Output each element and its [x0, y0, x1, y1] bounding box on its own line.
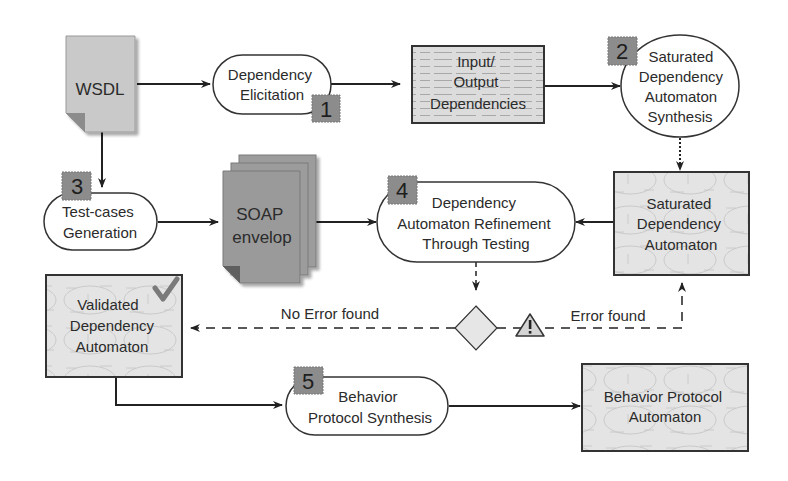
node-automaton-refinement[interactable]: Dependency Automaton Refinement Through … — [377, 176, 575, 262]
synthesis-line-4: Synthesis — [647, 108, 712, 125]
step-badge-2: 2 — [608, 37, 637, 65]
decision-diamond[interactable] — [455, 306, 497, 350]
svg-text:2: 2 — [616, 39, 628, 64]
behavior-synthesis-line-2: Protocol Synthesis — [308, 409, 432, 426]
step-badge-3: 3 — [62, 172, 91, 200]
synthesis-line-3: Automaton — [645, 88, 718, 105]
behavior-automaton-line-2: Automaton — [629, 408, 702, 425]
testcases-line-1: Test-cases — [62, 203, 134, 220]
workflow-diagram: WSDL Dependency Elicitation 1 Input/ Out… — [0, 0, 788, 481]
synthesis-line-2: Dependency — [639, 68, 724, 85]
sat-automaton-line-1: Saturated — [646, 195, 711, 212]
elicitation-line-2: Elicitation — [240, 86, 304, 103]
io-line-3: Dependencies — [430, 95, 526, 112]
testcases-line-2: Generation — [63, 224, 137, 241]
node-saturated-automaton[interactable]: Saturated Dependency Automaton — [614, 172, 749, 275]
step-badge-4: 4 — [388, 176, 417, 204]
svg-text:Saturated Dependency: Saturated Dependency Automaton — [637, 195, 725, 253]
node-saturated-synthesis[interactable]: Saturated Dependency Automaton Synthesis… — [608, 35, 739, 137]
node-testcases-generation[interactable]: Test-cases Generation 3 — [44, 172, 157, 250]
edge-validated-to-behavior-synthesis — [116, 377, 282, 405]
node-validated-automaton[interactable]: Validated Dependency Automaton — [46, 275, 182, 377]
node-behavior-automaton[interactable]: Behavior Protocol Automaton — [582, 364, 748, 451]
refinement-line-1: Dependency — [432, 194, 517, 211]
svg-text:1: 1 — [320, 97, 332, 122]
io-line-2: Output — [453, 73, 499, 90]
validated-line-3: Automaton — [76, 338, 149, 355]
validated-line-1: Validated — [77, 296, 138, 313]
svg-text:3: 3 — [71, 174, 83, 199]
sat-automaton-line-3: Automaton — [645, 236, 718, 253]
sat-automaton-line-2: Dependency — [637, 215, 722, 232]
step-badge-1: 1 — [312, 95, 340, 122]
refinement-line-2: Automaton Refinement — [397, 215, 551, 232]
wsdl-label: WSDL — [75, 80, 124, 99]
validated-line-2: Dependency — [70, 317, 155, 334]
svg-text:5: 5 — [302, 369, 314, 394]
refinement-line-3: Through Testing — [422, 235, 529, 252]
behavior-synthesis-line-1: Behavior — [338, 388, 397, 405]
io-line-1: Input/ — [457, 53, 495, 70]
warning-icon — [516, 314, 544, 336]
synthesis-line-1: Saturated — [648, 48, 713, 65]
svg-text:4: 4 — [396, 178, 408, 203]
no-error-label: No Error found — [281, 305, 379, 322]
node-behavior-synthesis[interactable]: Behavior Protocol Synthesis 5 — [286, 367, 448, 435]
step-badge-5: 5 — [294, 367, 323, 394]
node-io-dependencies[interactable]: Input/ Output Dependencies — [412, 46, 544, 123]
elicitation-line-1: Dependency — [228, 66, 313, 83]
behavior-automaton-line-1: Behavior Protocol — [604, 388, 722, 405]
error-found-label: Error found — [570, 307, 645, 324]
node-dependency-elicitation[interactable]: Dependency Elicitation 1 — [213, 55, 340, 122]
